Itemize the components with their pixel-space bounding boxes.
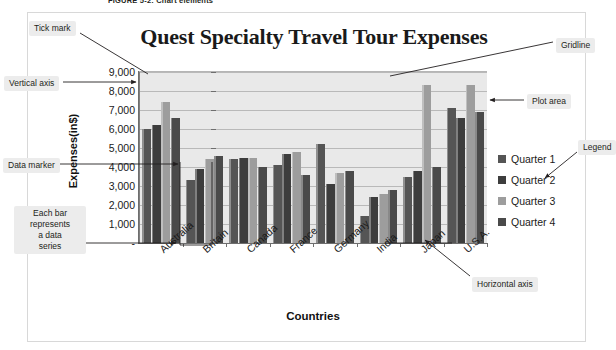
x-tick-mark xyxy=(487,243,488,247)
annotation-legend: Legend xyxy=(578,140,616,155)
bar-group xyxy=(447,72,485,243)
bar-group xyxy=(360,72,398,243)
legend-item-label: Quarter 3 xyxy=(511,195,555,207)
annotation-data-series: Each bar represents a data series xyxy=(14,206,86,254)
annotation-plot-area: Plot area xyxy=(527,94,571,109)
bar-japan-q3[interactable] xyxy=(422,85,431,243)
legend-swatch-icon xyxy=(498,218,506,226)
data-markers xyxy=(139,72,487,243)
x-tick-mark xyxy=(226,243,227,247)
bar-group xyxy=(229,72,267,243)
bar-germany-q1[interactable] xyxy=(316,144,325,243)
annotation-tick-mark: Tick mark xyxy=(29,21,76,36)
bar-group xyxy=(142,72,180,243)
legend-swatch-icon xyxy=(498,197,506,205)
x-tick-mark xyxy=(313,243,314,247)
x-tick-mark xyxy=(183,243,184,247)
x-tick-mark xyxy=(444,243,445,247)
y-tick-label: 4,000 xyxy=(109,161,135,173)
legend-item-quarter-2[interactable]: Quarter 2 xyxy=(498,169,555,190)
bar-group xyxy=(403,72,441,243)
x-tick-mark xyxy=(400,243,401,247)
y-axis-title: Expenses(in$) xyxy=(63,100,83,210)
annotation-data-marker: Data marker xyxy=(3,158,60,173)
bar-australia-q1[interactable] xyxy=(142,129,151,243)
annotation-gridline: Gridline xyxy=(556,38,595,53)
bar-germany-q2[interactable] xyxy=(326,184,335,243)
x-axis-title: Countries xyxy=(139,310,487,322)
legend-swatch-icon xyxy=(498,176,506,184)
y-tick-label: 1,000 xyxy=(109,218,135,230)
bar-group xyxy=(273,72,311,243)
y-tick-label: 3,000 xyxy=(109,180,135,192)
bar-japan-q1[interactable] xyxy=(403,177,412,244)
bar-group xyxy=(186,72,224,243)
y-tick-label: 8,000 xyxy=(109,85,135,97)
legend-item-quarter-4[interactable]: Quarter 4 xyxy=(498,211,555,232)
bar-usa-q3[interactable] xyxy=(466,85,475,243)
chart-legend: Quarter 1Quarter 2Quarter 3Quarter 4 xyxy=(498,148,555,232)
vertical-axis-ticks: 9,0008,0007,0006,0005,0004,0003,0002,000… xyxy=(78,0,135,350)
legend-swatch-icon xyxy=(498,155,506,163)
x-tick-mark xyxy=(270,243,271,247)
x-tick-mark xyxy=(357,243,358,247)
bar-australia-q3[interactable] xyxy=(161,102,170,243)
bar-usa-q4[interactable] xyxy=(475,112,484,243)
bar-france-q3[interactable] xyxy=(292,152,301,243)
bar-france-q2[interactable] xyxy=(282,154,291,243)
legend-item-label: Quarter 4 xyxy=(511,216,555,228)
bar-australia-q4[interactable] xyxy=(171,118,180,243)
bar-australia-q2[interactable] xyxy=(152,125,161,243)
bar-group xyxy=(316,72,354,243)
bar-japan-q2[interactable] xyxy=(413,171,422,243)
legend-item-quarter-1[interactable]: Quarter 1 xyxy=(498,148,555,169)
y-tick-label: 9,000 xyxy=(109,66,135,78)
annotation-horizontal-axis: Horizontal axis xyxy=(472,277,538,292)
annotation-vertical-axis: Vertical axis xyxy=(4,76,59,91)
vertical-axis-line xyxy=(138,71,139,244)
y-tick-label: 2,000 xyxy=(109,199,135,211)
y-tick-label: 5,000 xyxy=(109,142,135,154)
bar-canada-q1[interactable] xyxy=(229,159,238,243)
bar-india-q2[interactable] xyxy=(369,197,378,243)
bar-usa-q1[interactable] xyxy=(447,108,456,243)
horizontal-axis-labels: AustraliaBritainCanadaFranceGermanyIndia… xyxy=(139,246,487,306)
bar-britain-q3[interactable] xyxy=(205,159,214,243)
legend-item-label: Quarter 1 xyxy=(511,153,555,165)
y-tick-label: 6,000 xyxy=(109,123,135,135)
y-tick-label: - xyxy=(132,237,136,249)
bar-usa-q2[interactable] xyxy=(456,118,465,243)
bar-germany-q3[interactable] xyxy=(335,173,344,243)
bar-canada-q2[interactable] xyxy=(239,158,248,244)
legend-item-label: Quarter 2 xyxy=(511,174,555,186)
chart-title: Quest Specialty Travel Tour Expenses xyxy=(118,24,510,50)
y-axis-title-text: Expenses(in$) xyxy=(67,96,79,206)
bar-britain-q2[interactable] xyxy=(195,169,204,243)
bar-canada-q3[interactable] xyxy=(248,158,257,244)
y-tick-label: 7,000 xyxy=(109,104,135,116)
legend-item-quarter-3[interactable]: Quarter 3 xyxy=(498,190,555,211)
